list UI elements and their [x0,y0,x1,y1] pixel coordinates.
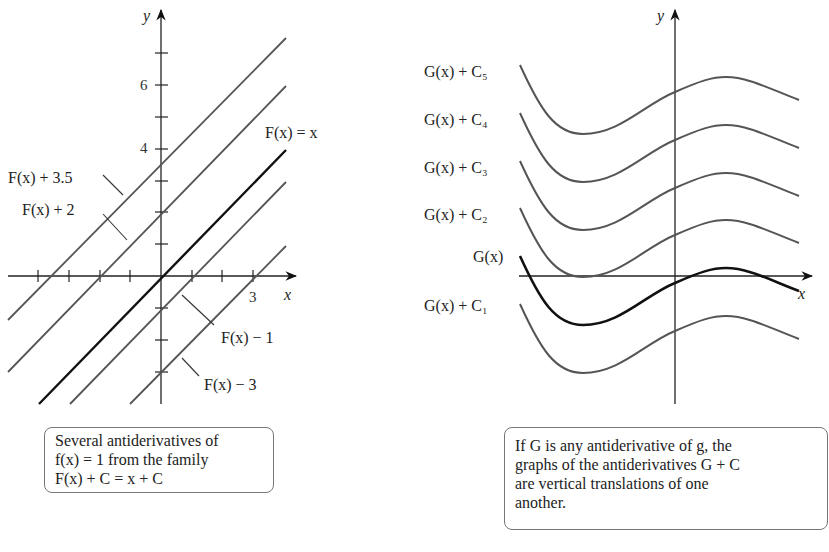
curve-g [520,256,799,325]
label-f-plus-2: F(x) + 2 [22,201,75,219]
leader-f-minus-3 [182,358,199,376]
caption-left-line-3: F(x) + C = x + C [55,469,265,488]
leader-f-minus-1 [182,295,214,325]
y-axis-label: y [141,7,151,25]
x-tick-label-3: 3 [249,289,257,305]
label-g-plus-c5: G(x) + C₅ [424,63,487,81]
curve-g-plus-c2 [520,208,799,277]
right-graph: x y G(x) + C₅ G(x) + C₄ G(x) + C₃ G(x) +… [424,7,812,404]
caption-right-line-3: are vertical translations of one [515,474,819,493]
x-axis-label: x [797,285,805,302]
curve-g-plus-c5 [520,65,799,134]
curve-g-plus-c1 [520,304,799,373]
label-f-equals-x: F(x) = x [265,124,318,142]
left-graph: 6 4 3 x y F(x) + 3.5 F(x) + 2 F(x) = x F… [8,7,318,404]
caption-right-line-4: another. [515,493,819,512]
label-g-plus-c2: G(x) + C₂ [424,206,487,224]
caption-left-line-1: Several antiderivatives of [55,431,265,450]
line-f-equals-x [39,150,286,404]
curve-g-plus-c3 [520,161,799,230]
y-axis-label: y [655,7,665,25]
label-f-plus-3-5: F(x) + 3.5 [8,169,73,187]
y-tick-label-6: 6 [140,77,148,93]
label-f-minus-3: F(x) − 3 [204,376,257,394]
label-g-plus-c4: G(x) + C₄ [424,111,488,129]
label-g-plus-c3: G(x) + C₃ [424,159,487,177]
leader-f-plus-3-5 [103,175,123,195]
label-g-plus-c1: G(x) + C₁ [424,297,487,315]
label-f-minus-1: F(x) − 1 [221,329,274,347]
caption-right: If G is any antiderivative of g, the gra… [504,427,828,530]
caption-left-line-2: f(x) = 1 from the family [55,450,265,469]
label-g: G(x) [473,248,503,266]
caption-right-line-2: graphs of the antiderivatives G + C [515,455,819,474]
curve-g-plus-c4 [520,113,799,182]
leader-f-plus-2 [103,214,127,240]
caption-left: Several antiderivatives of f(x) = 1 from… [44,427,274,493]
caption-right-line-1: If G is any antiderivative of g, the [515,436,819,455]
y-tick-label-4: 4 [140,140,148,156]
x-axis-label: x [283,286,291,303]
